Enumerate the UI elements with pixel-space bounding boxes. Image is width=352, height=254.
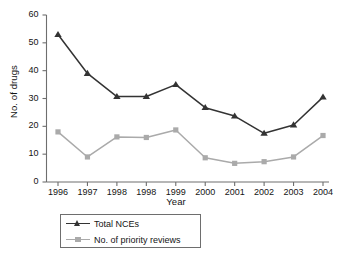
data-point-marker — [54, 31, 61, 37]
legend-label-priority-reviews: No. of priority reviews — [94, 235, 181, 245]
legend-marker-triangle-icon — [65, 217, 91, 231]
y-axis-tick-label: 0 — [17, 176, 39, 186]
data-point-marker — [55, 129, 60, 134]
legend-marker-square-icon — [65, 233, 91, 247]
y-axis-tick-label: 10 — [17, 148, 39, 158]
legend-item-total-nces: Total NCEs — [61, 215, 200, 232]
data-point-marker — [319, 94, 326, 100]
data-point-marker — [85, 154, 90, 159]
data-point-marker — [203, 155, 208, 160]
chart-figure: No. of drugs Year 0102030405060 19961997… — [0, 0, 352, 254]
y-axis-tick-label: 20 — [17, 120, 39, 130]
y-axis-tick-label: 50 — [17, 37, 39, 47]
chart-legend: Total NCEs No. of priority reviews — [60, 214, 201, 248]
x-axis-tick-label: 2004 — [303, 187, 343, 197]
x-axis-title: Year — [0, 196, 352, 207]
data-point-marker — [262, 159, 267, 164]
y-axis-tick-label: 60 — [17, 9, 39, 19]
data-point-marker — [144, 135, 149, 140]
legend-item-priority-reviews: No. of priority reviews — [61, 231, 200, 248]
data-point-marker — [114, 134, 119, 139]
legend-label-total-nces: Total NCEs — [94, 219, 139, 229]
data-point-marker — [291, 154, 296, 159]
y-axis-tick-label: 40 — [17, 65, 39, 75]
y-axis-tick-label: 30 — [17, 93, 39, 103]
data-point-marker — [320, 133, 325, 138]
data-point-marker — [172, 81, 179, 87]
series-line-0 — [58, 34, 323, 133]
data-point-marker — [232, 161, 237, 166]
data-point-marker — [173, 127, 178, 132]
series-line-1 — [58, 130, 323, 163]
